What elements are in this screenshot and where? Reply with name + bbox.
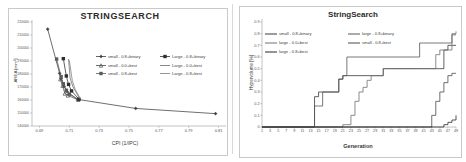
legend-item: Large - 0.8+best: [160, 71, 220, 76]
svg-text:0.3: 0.3: [254, 90, 259, 94]
panel-divider: [232, 4, 233, 154]
svg-text:0.8: 0.8: [254, 32, 259, 36]
svg-text:49: 49: [454, 129, 458, 133]
legend-item: large - 0.8+binary: [348, 31, 425, 36]
svg-text:9: 9: [293, 129, 295, 133]
svg-text:0.4: 0.4: [254, 79, 259, 83]
svg-text:29: 29: [373, 129, 377, 133]
svg-text:13: 13: [308, 129, 312, 133]
svg-text:15: 15: [317, 129, 321, 133]
svg-text:21: 21: [341, 129, 345, 133]
svg-text:0.9: 0.9: [254, 20, 259, 24]
legend-marker-icon: [96, 63, 106, 68]
legend-item: small - 0.8+binary: [96, 54, 156, 59]
legend-line-icon: [265, 32, 277, 36]
svg-text:19: 19: [333, 129, 337, 133]
svg-text:0.73: 0.73: [95, 128, 104, 133]
legend-line-icon: [348, 41, 360, 45]
svg-text:0.79: 0.79: [185, 128, 194, 133]
svg-text:0.81: 0.81: [215, 128, 224, 133]
svg-text:170000: 170000: [17, 85, 29, 89]
legend-item-label: Large - 0.8+best: [172, 71, 202, 76]
svg-text:33: 33: [389, 129, 393, 133]
legend-marker-icon: [96, 71, 106, 76]
svg-text:210000: 210000: [17, 33, 29, 37]
legend-item: Large - 0.0+best: [160, 63, 220, 68]
legend-marker-icon: [160, 63, 170, 68]
legend-item: small - 0.8+best: [96, 71, 156, 76]
svg-text:220000: 220000: [17, 20, 29, 24]
svg-text:160000: 160000: [17, 98, 29, 102]
legend-item: small - 0.8+best: [348, 40, 425, 45]
legend-item: Large - 0.8+binary: [160, 54, 220, 59]
legend-item-label: small - 0.8+binary: [279, 31, 311, 36]
svg-text:17: 17: [325, 129, 329, 133]
legend-item-label: large - 0.8+binary: [362, 31, 394, 36]
legend-item-label: small - 0.8+binary: [108, 54, 140, 59]
svg-text:3: 3: [269, 129, 271, 133]
svg-text:0.71: 0.71: [65, 128, 74, 133]
svg-text:0: 0: [257, 125, 259, 129]
svg-text:11: 11: [301, 129, 305, 133]
legend-line-icon: [265, 41, 277, 45]
svg-text:45: 45: [438, 129, 442, 133]
legend-item-label: Large - 0.8+binary: [172, 54, 205, 59]
svg-text:1: 1: [261, 129, 263, 133]
legend-item-label: small - 0.8+best: [362, 40, 391, 45]
legend-item: small - 0.0+best: [96, 63, 156, 68]
svg-text:31: 31: [381, 129, 385, 133]
legend-item: large - 0.0+best: [265, 40, 342, 45]
legend-line-icon: [265, 50, 277, 54]
svg-text:37: 37: [405, 129, 409, 133]
svg-text:7: 7: [285, 129, 287, 133]
legend-marker-icon: [160, 71, 170, 76]
svg-text:23: 23: [349, 129, 353, 133]
left-legend: small - 0.8+binaryLarge - 0.8+binarysmal…: [96, 54, 220, 76]
svg-text:35: 35: [397, 129, 401, 133]
legend-line-icon: [348, 32, 360, 36]
legend-marker-icon: [160, 54, 170, 59]
legend-item-label: large - 0.8+best: [279, 49, 308, 54]
legend-item-label: Large - 0.0+best: [172, 63, 202, 68]
svg-text:25: 25: [357, 129, 361, 133]
left-plot-area: 1400001500001600001700001800001900002000…: [0, 0, 233, 162]
svg-text:43: 43: [430, 129, 434, 133]
svg-text:0.69: 0.69: [36, 128, 45, 133]
svg-text:150000: 150000: [17, 111, 29, 115]
left-chart-panel: STRINGSEARCH AREA [mm²] CPI (1/IPC) 1400…: [0, 0, 233, 162]
svg-text:0.75: 0.75: [125, 128, 134, 133]
figure-canvas: STRINGSEARCH AREA [mm²] CPI (1/IPC) 1400…: [0, 0, 466, 162]
legend-item-label: large - 0.0+best: [279, 40, 308, 45]
svg-text:180000: 180000: [17, 72, 29, 76]
svg-text:0.2: 0.2: [254, 102, 259, 106]
svg-text:190000: 190000: [17, 59, 29, 63]
legend-marker-icon: [96, 54, 106, 59]
svg-text:0.6: 0.6: [254, 55, 259, 59]
right-chart-panel: StringSearch Hypervolume [%] Generation …: [233, 0, 466, 162]
svg-text:0.1: 0.1: [254, 114, 259, 118]
svg-text:27: 27: [365, 129, 369, 133]
svg-text:5: 5: [277, 129, 279, 133]
svg-text:0.77: 0.77: [155, 128, 164, 133]
svg-text:200000: 200000: [17, 46, 29, 50]
legend-item: small - 0.8+binary: [265, 31, 342, 36]
svg-text:39: 39: [414, 129, 418, 133]
legend-item-label: small - 0.8+best: [108, 71, 137, 76]
svg-text:0.5: 0.5: [254, 67, 259, 71]
legend-item-label: small - 0.0+best: [108, 63, 137, 68]
right-plot-area: 00.10.20.30.40.50.60.70.80.9135791113151…: [233, 0, 466, 162]
legend-item: large - 0.8+best: [265, 49, 342, 54]
svg-text:0.7: 0.7: [254, 44, 259, 48]
svg-text:41: 41: [422, 129, 426, 133]
svg-text:47: 47: [446, 129, 450, 133]
svg-text:140000: 140000: [17, 124, 29, 128]
right-legend: small - 0.8+binarylarge - 0.8+binarylarg…: [265, 31, 425, 54]
